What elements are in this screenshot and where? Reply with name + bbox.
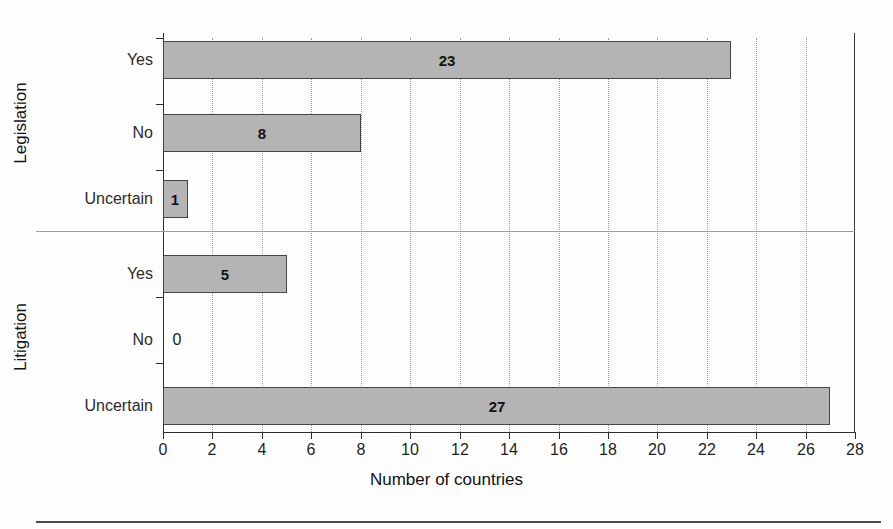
x-tick-label-10: 10: [401, 441, 419, 459]
x-tick-label-8: 8: [357, 441, 366, 459]
gridline-18: [608, 38, 610, 432]
x-tick-mark-16: [559, 433, 560, 439]
x-tick-label-28: 28: [846, 441, 864, 459]
x-axis-title: Number of countries: [0, 470, 893, 490]
gridline-4: [262, 38, 264, 432]
y-tick-4: [156, 363, 163, 364]
x-tick-mark-8: [361, 433, 362, 439]
x-tick-label-14: 14: [500, 441, 518, 459]
x-tick-label-2: 2: [208, 441, 217, 459]
y-tick-0: [156, 38, 163, 39]
gridline-26: [806, 38, 808, 432]
x-tick-mark-12: [460, 433, 461, 439]
gridline-12: [460, 38, 462, 432]
x-tick-mark-18: [608, 433, 609, 439]
y-axis-line: [163, 33, 164, 437]
category-label: Yes: [127, 51, 153, 69]
chart-figure: Legislation Litigation Yes No Uncertain …: [0, 0, 893, 529]
x-tick-mark-10: [410, 433, 411, 439]
gridline-10: [410, 38, 412, 432]
x-tick-label-6: 6: [307, 441, 316, 459]
plot-right-edge: [854, 33, 855, 433]
x-tick-mark-14: [509, 433, 510, 439]
y-tick-1: [156, 104, 163, 105]
x-tick-mark-24: [756, 433, 757, 439]
x-tick-label-0: 0: [159, 441, 168, 459]
gridline-8: [361, 38, 363, 432]
x-tick-mark-20: [657, 433, 658, 439]
group-title-legislation: Legislation: [11, 82, 31, 163]
x-tick-mark-6: [311, 433, 312, 439]
x-tick-label-26: 26: [797, 441, 815, 459]
bar-value-litigation-yes: 5: [221, 266, 229, 283]
gridline-22: [707, 38, 709, 432]
x-tick-mark-22: [707, 433, 708, 439]
x-tick-label-20: 20: [648, 441, 666, 459]
x-tick-mark-26: [806, 433, 807, 439]
x-tick-label-4: 4: [258, 441, 267, 459]
bar-value-litigation-uncertain: 27: [489, 398, 506, 415]
category-label: Yes: [127, 265, 153, 283]
y-tick-2: [156, 170, 163, 171]
category-label: No: [133, 331, 153, 349]
category-label: Uncertain: [85, 397, 153, 415]
gridline-2: [212, 38, 214, 432]
x-tick-mark-0: [163, 433, 164, 439]
gridline-6: [311, 38, 313, 432]
bar-value-legislation-uncertain: 1: [171, 191, 179, 208]
x-tick-mark-28: [855, 433, 856, 439]
gridline-24: [756, 38, 758, 432]
bar-value-litigation-no: 0: [173, 331, 182, 349]
x-tick-label-22: 22: [698, 441, 716, 459]
category-label: Uncertain: [85, 190, 153, 208]
bar-value-legislation-yes: 23: [439, 52, 456, 69]
x-tick-mark-4: [262, 433, 263, 439]
x-tick-label-16: 16: [550, 441, 568, 459]
gridline-20: [657, 38, 659, 432]
x-tick-label-18: 18: [599, 441, 617, 459]
group-title-litigation: Litigation: [11, 303, 31, 371]
gridline-14: [509, 38, 511, 432]
gridline-16: [559, 38, 561, 432]
category-label: No: [133, 124, 153, 142]
y-tick-3: [156, 297, 163, 298]
bottom-rule: [36, 521, 881, 523]
x-tick-label-12: 12: [451, 441, 469, 459]
group-separator-line: [36, 231, 855, 232]
x-tick-label-24: 24: [747, 441, 765, 459]
bar-value-legislation-no: 8: [258, 125, 266, 142]
x-tick-mark-2: [212, 433, 213, 439]
